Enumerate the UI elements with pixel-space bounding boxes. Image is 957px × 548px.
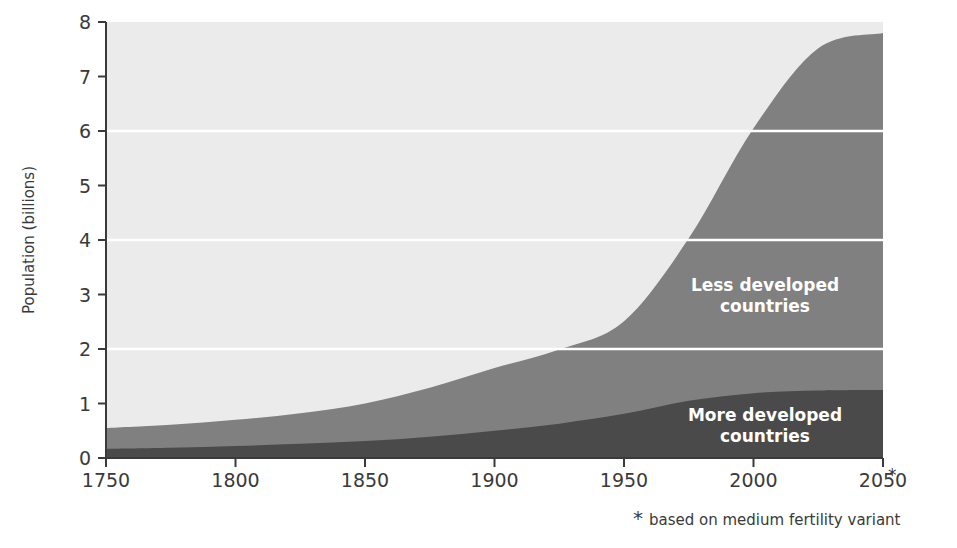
- y-tick-label-1: 1: [79, 393, 91, 415]
- footnote: * based on medium fertility variant: [633, 506, 901, 530]
- x-tick-label-1850: 1850: [341, 469, 389, 491]
- y-tick-label-2: 2: [79, 338, 91, 360]
- y-tick-label-7: 7: [79, 66, 91, 88]
- y-tick-label-0: 0: [79, 447, 91, 469]
- x-tick-label-2050: 2050: [859, 469, 907, 491]
- y-axis-tickmarks: [98, 22, 106, 458]
- y-tick-label-3: 3: [79, 284, 91, 306]
- population-growth-chart-figure: 012345678 1750180018501900195020002050 *…: [0, 0, 957, 548]
- x-axis-last-tick-asterisk: *: [888, 465, 897, 485]
- x-axis-tick-labels: 1750180018501900195020002050: [82, 469, 907, 491]
- x-axis-tickmarks: [106, 458, 883, 467]
- y-axis-tick-labels: 012345678: [79, 11, 91, 469]
- footnote-asterisk: *: [633, 506, 643, 530]
- y-tick-label-5: 5: [79, 175, 91, 197]
- y-tick-label-8: 8: [79, 11, 91, 33]
- x-tick-label-1950: 1950: [600, 469, 648, 491]
- more-developed-label-line1: More developed: [688, 405, 842, 425]
- y-tick-label-6: 6: [79, 120, 91, 142]
- chart-canvas: 012345678 1750180018501900195020002050 *…: [0, 0, 957, 548]
- less-developed-label-line2: countries: [720, 296, 810, 316]
- less-developed-label-line1: Less developed: [691, 275, 839, 295]
- footnote-label: based on medium fertility variant: [649, 511, 901, 529]
- y-axis-title: Population (billions): [20, 166, 38, 314]
- x-tick-label-1800: 1800: [211, 469, 259, 491]
- x-tick-label-2000: 2000: [729, 469, 777, 491]
- x-tick-label-1900: 1900: [470, 469, 518, 491]
- more-developed-label-line2: countries: [720, 426, 810, 446]
- y-tick-label-4: 4: [79, 229, 91, 251]
- x-tick-label-1750: 1750: [82, 469, 130, 491]
